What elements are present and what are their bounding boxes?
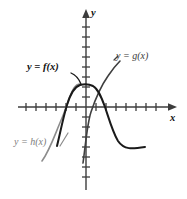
curve-label-g: y = g(x): [116, 51, 148, 61]
x-axis-label: x: [170, 113, 175, 124]
x-axis-arrowhead: [168, 103, 177, 111]
coordinate-plot: [0, 0, 187, 199]
y-axis-arrowhead: [82, 9, 90, 18]
y-axis-label: y: [91, 8, 96, 19]
curve-h: [42, 84, 80, 161]
curve-label-h: y = h(x): [14, 137, 46, 147]
curve-label-f: y = f(x): [27, 62, 59, 73]
graph-figure: y = f(x) y = g(x) y = h(x) x y: [0, 0, 187, 199]
h-label-leader: [60, 133, 68, 146]
curve-g: [83, 61, 120, 163]
curve-f: [57, 84, 145, 148]
f-label-leader: [71, 73, 81, 84]
